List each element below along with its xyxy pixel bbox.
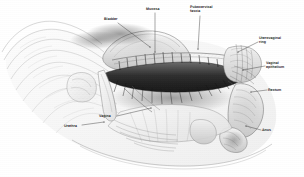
- anus-leader-tip: [245, 125, 246, 126]
- anatomy-illustration: [0, 0, 304, 177]
- pubic-symphysis: [67, 72, 98, 104]
- anatomical-figure: BladderMucosaPubocervical fasciaUterovag…: [0, 0, 304, 177]
- uterovaginal-ring-leader-tip: [237, 51, 238, 52]
- urethra-leader-tip: [103, 121, 104, 122]
- label-bladder: Bladder: [104, 17, 118, 21]
- label-vaginal-epithelium: Vaginal epithelium: [266, 61, 284, 70]
- vagina-leader-tip: [150, 107, 151, 108]
- label-vagina: Vagina: [99, 114, 111, 118]
- vaginal-epithelium-leader-tip: [242, 69, 243, 70]
- rectum-leader-tip: [250, 91, 251, 92]
- label-mucosa: Mucosa: [146, 7, 160, 11]
- label-rectum: Rectum: [268, 88, 281, 92]
- bladder-leader-tip: [149, 46, 150, 47]
- label-anus: Anus: [262, 128, 271, 132]
- label-uterovaginal-ring: Uterovaginal ring: [259, 36, 281, 45]
- label-urethra: Urethra: [64, 124, 77, 128]
- label-pubocervical: Pubocervical fascia: [190, 5, 213, 14]
- pubocervical-leader-tip: [197, 48, 198, 49]
- mucosa-leader-tip: [154, 51, 155, 52]
